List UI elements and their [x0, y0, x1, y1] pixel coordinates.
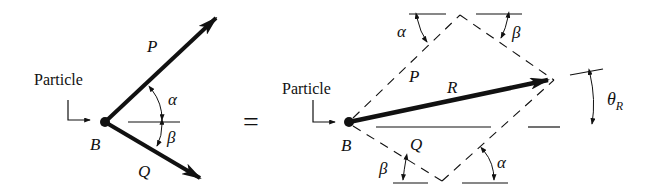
vector-p-label-left: P [146, 37, 157, 56]
force-diagram: Particle P Q α β B = Particle [0, 0, 655, 190]
beta-label-top: β [511, 23, 521, 42]
resultant-direction-tick [570, 69, 603, 75]
vector-q-label-left: Q [138, 162, 150, 181]
particle-label-left: Particle [34, 71, 83, 88]
alpha-label-bottom: α [497, 153, 507, 172]
point-b-label-left: B [90, 135, 101, 154]
theta-r-arc [590, 74, 594, 124]
alpha-label-left: α [168, 90, 178, 109]
particle-point-left [100, 117, 110, 127]
beta-label-left: β [166, 128, 176, 147]
vector-q-arrow [105, 122, 200, 178]
equals-sign: = [243, 106, 259, 137]
alpha-arc-left [152, 90, 162, 120]
resultant-r-label: R [446, 78, 458, 97]
beta-arc-left [157, 124, 162, 146]
alpha-label-top: α [397, 22, 407, 41]
vector-q-label-right: Q [410, 135, 422, 154]
particle-point-right [344, 117, 354, 127]
beta-label-bottom: β [378, 159, 388, 178]
particle-pointer-arrow-icon [68, 100, 90, 120]
particle-label-right: Particle [282, 80, 331, 97]
beta-arc-top [501, 17, 508, 38]
alpha-arc-top [417, 18, 427, 42]
left-figure: Particle P Q α β B [34, 18, 216, 181]
vector-p-label-right: P [408, 67, 419, 86]
theta-r-label: θR [607, 89, 624, 113]
alpha-arc-bottom [484, 151, 494, 180]
point-b-label-right: B [341, 136, 352, 155]
particle-pointer-arrow-icon [313, 100, 335, 122]
beta-arc-bottom [403, 159, 406, 180]
right-figure: Particle R P Q α β β α [282, 14, 624, 183]
